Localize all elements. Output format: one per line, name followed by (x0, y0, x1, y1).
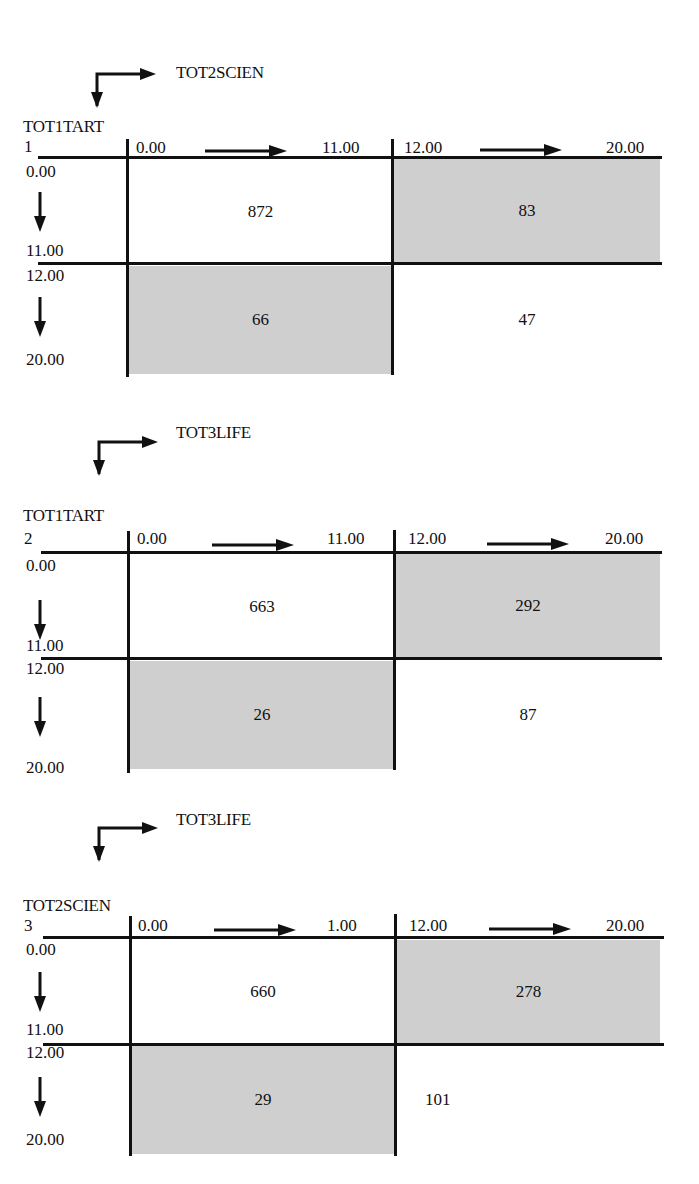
col2-from-label: 12.00 (404, 138, 442, 158)
cell-r1-c2: 292 (396, 554, 660, 658)
cell-r1-c2: 83 (394, 159, 660, 263)
middle-rule (43, 1043, 664, 1046)
row2-to-label: 20.00 (26, 758, 64, 778)
cell-r1-c1: 663 (130, 555, 394, 658)
table-number: 2 (24, 529, 33, 549)
middle-rule (41, 657, 662, 660)
corner-arrow-icon (90, 818, 160, 862)
cell-r2-c2: 87 (396, 661, 660, 769)
cell-r2-c2: 101 (397, 1046, 660, 1154)
down-arrow-icon (34, 972, 46, 1016)
cell-r1-c1: 660 (132, 941, 394, 1043)
row1-from-label: 0.00 (26, 162, 56, 182)
corner-arrow-icon (90, 432, 160, 476)
col1-to-label: 11.00 (327, 529, 365, 549)
corner-arrow-icon (88, 64, 158, 108)
header-rule (38, 156, 662, 159)
col1-from-label: 0.00 (138, 916, 168, 936)
column-variable-label: TOT3LIFE (176, 810, 251, 830)
col2-from-label: 12.00 (408, 529, 446, 549)
column-divider (394, 914, 397, 1156)
table-number: 3 (24, 916, 33, 936)
row2-from-label: 12.00 (26, 266, 64, 286)
header-rule (43, 936, 664, 939)
col1-from-label: 0.00 (136, 138, 166, 158)
cell-r2-c1: 26 (130, 661, 394, 769)
header-rule (41, 551, 662, 554)
table-number: 1 (24, 137, 33, 157)
cell-r2-c1: 29 (132, 1046, 394, 1154)
cell-r1-c1: 872 (129, 160, 392, 263)
row-variable-label: TOT1TART (23, 117, 104, 137)
row-label-divider (127, 531, 130, 773)
column-variable-label: TOT2SCIEN (176, 63, 264, 83)
col2-to-label: 20.00 (605, 529, 643, 549)
row2-to-label: 20.00 (26, 1130, 64, 1150)
cell-r1-c2: 278 (397, 940, 660, 1043)
col2-to-label: 20.00 (606, 916, 644, 936)
cell-r2-c1: 66 (129, 266, 392, 374)
col1-to-label: 1.00 (327, 916, 357, 936)
row1-from-label: 0.00 (26, 940, 56, 960)
row-label-divider (126, 139, 129, 377)
row1-to-label: 11.00 (26, 241, 64, 261)
down-arrow-icon (34, 192, 46, 236)
column-divider (391, 139, 394, 375)
column-divider (393, 530, 396, 770)
row2-to-label: 20.00 (26, 350, 64, 370)
down-arrow-icon (34, 297, 46, 341)
col1-to-label: 11.00 (322, 138, 360, 158)
col2-from-label: 12.00 (409, 916, 447, 936)
cell-r2-c2: 47 (394, 266, 660, 374)
row1-from-label: 0.00 (26, 556, 56, 576)
down-arrow-icon (34, 697, 46, 741)
col1-from-label: 0.00 (137, 529, 167, 549)
row1-to-label: 11.00 (26, 1020, 64, 1040)
row-variable-label: TOT1TART (23, 506, 104, 526)
row2-from-label: 12.00 (26, 1043, 64, 1063)
down-arrow-icon (34, 1077, 46, 1121)
row1-to-label: 11.00 (26, 636, 64, 656)
row2-from-label: 12.00 (26, 659, 64, 679)
row-variable-label: TOT2SCIEN (23, 896, 111, 916)
row-label-divider (129, 916, 132, 1156)
col2-to-label: 20.00 (606, 138, 644, 158)
middle-rule (38, 262, 662, 265)
column-variable-label: TOT3LIFE (176, 423, 251, 443)
